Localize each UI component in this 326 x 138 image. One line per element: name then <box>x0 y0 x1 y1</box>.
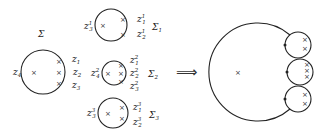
marked-point: × <box>302 45 308 53</box>
marked-point: × <box>302 100 308 108</box>
marked-point: × <box>100 22 106 30</box>
z24-label: z24 <box>90 67 100 79</box>
marked-point-z1: × <box>56 58 62 66</box>
marked-point: × <box>120 16 126 24</box>
diagram-canvas: Σ × × × × z4 z1 z2 z3 × × × z13 z11 z12 … <box>0 0 326 138</box>
sigma3-circle <box>98 98 128 128</box>
node-point <box>286 71 289 74</box>
marked-point: × <box>235 69 241 77</box>
marked-point: × <box>302 36 308 44</box>
z22-label: z22 <box>129 67 139 79</box>
glued-surface: × × × × × × × × <box>209 23 313 121</box>
big-circle <box>209 23 290 121</box>
z3-label: z3 <box>71 80 81 91</box>
main-surface: Σ × × × × z4 z1 z2 z3 <box>12 29 82 94</box>
z1-label: z1 <box>71 54 80 65</box>
component-sigma-1: × × × z13 z11 z12 Σ1 <box>83 9 162 41</box>
z11-label: z11 <box>136 13 146 25</box>
marked-point: × <box>304 73 310 81</box>
marked-point: × <box>120 31 126 39</box>
marked-point: × <box>118 62 124 70</box>
z13-label: z13 <box>83 20 93 32</box>
sigma-label: Σ <box>37 29 45 39</box>
sigma3-label: Σ3 <box>148 110 159 121</box>
component-sigma-2: × × × × z24 z21 z22 z23 Σ2 <box>90 54 158 92</box>
marked-point: × <box>118 78 124 86</box>
z4-label: z4 <box>12 67 22 78</box>
node-point <box>284 98 287 101</box>
marked-point: × <box>105 70 111 78</box>
z32-label: z32 <box>132 116 142 128</box>
z12-label: z12 <box>136 28 146 40</box>
z33-label: z33 <box>86 107 96 119</box>
node-point <box>284 44 287 47</box>
marked-point: × <box>302 91 308 99</box>
z31-label: z31 <box>132 101 142 113</box>
marked-point: × <box>119 104 125 112</box>
sigma1-label: Σ1 <box>151 22 162 33</box>
z2-label: z2 <box>72 67 82 78</box>
marked-point-z2: × <box>56 69 62 77</box>
marked-point: × <box>105 110 111 118</box>
z23-label: z23 <box>129 80 139 92</box>
sigma2-label: Σ2 <box>147 69 158 80</box>
bubble-3 <box>285 86 311 112</box>
implies-arrow: ⟹ <box>176 63 198 81</box>
component-sigma-3: × × × z33 z31 z32 Σ3 <box>86 98 159 128</box>
marked-point-z4: × <box>31 69 37 77</box>
marked-point-z3: × <box>56 80 62 88</box>
marked-point: × <box>118 70 124 78</box>
marked-point: × <box>119 115 125 123</box>
z21-label: z21 <box>129 54 139 66</box>
